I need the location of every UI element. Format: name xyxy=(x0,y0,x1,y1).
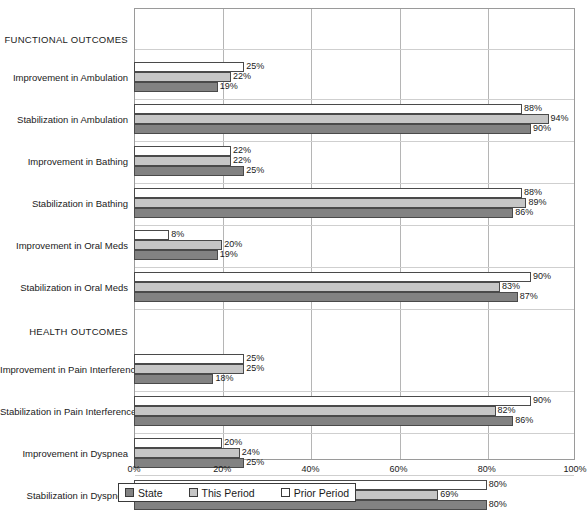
bar-period[interactable] xyxy=(134,282,500,292)
legend-item-prior-period[interactable]: Prior Period xyxy=(281,487,349,499)
section-label: FUNCTIONAL OUTCOMES xyxy=(0,34,128,45)
category-label: Improvement in Pain Interference xyxy=(0,364,128,375)
bar-state[interactable] xyxy=(134,250,218,260)
x-axis-tick-label: 60% xyxy=(390,464,408,475)
gridline-horizontal xyxy=(135,475,574,476)
bar-prior[interactable] xyxy=(134,354,244,364)
category-label: Stabilization in Ambulation xyxy=(0,114,128,125)
bar-state[interactable] xyxy=(134,124,531,134)
bar-period[interactable] xyxy=(134,198,526,208)
bar-period[interactable] xyxy=(134,406,496,416)
section-label: HEALTH OUTCOMES xyxy=(0,326,128,337)
bar-value-label: 90% xyxy=(531,123,551,134)
bar-prior[interactable] xyxy=(134,272,531,282)
bar-prior[interactable] xyxy=(134,62,244,72)
legend-label-this-period: This Period xyxy=(202,487,255,499)
bar-state[interactable] xyxy=(134,166,244,176)
category-label: Improvement in Dyspnea xyxy=(0,448,128,459)
bar-state[interactable] xyxy=(134,208,513,218)
gridline-horizontal xyxy=(135,433,574,434)
legend-item-state[interactable]: State xyxy=(125,487,163,499)
category-label: Stabilization in Oral Meds xyxy=(0,282,128,293)
bar-prior[interactable] xyxy=(134,438,222,448)
bar-period[interactable] xyxy=(134,114,549,124)
bar-value-label: 25% xyxy=(244,165,264,176)
chart-title xyxy=(134,0,575,1)
legend-label-state: State xyxy=(138,487,163,499)
category-label: Improvement in Oral Meds xyxy=(0,240,128,251)
chart-legend: State This Period Prior Period xyxy=(118,483,356,502)
category-label: Improvement in Bathing xyxy=(0,156,128,167)
category-label: Stabilization in Dyspnea xyxy=(0,490,128,501)
bar-value-label: 18% xyxy=(213,373,233,384)
bar-state[interactable] xyxy=(134,416,513,426)
gridline-horizontal xyxy=(135,391,574,392)
gridline-horizontal xyxy=(135,49,574,50)
legend-label-prior-period: Prior Period xyxy=(294,487,349,499)
bar-value-label: 86% xyxy=(513,415,533,426)
bar-state[interactable] xyxy=(134,374,213,384)
gridline-horizontal xyxy=(135,183,574,184)
category-label: Improvement in Ambulation xyxy=(0,72,128,83)
bar-chart: FUNCTIONAL OUTCOMESImprovement in Ambula… xyxy=(0,0,588,510)
legend-swatch-state-icon xyxy=(125,488,134,497)
bar-prior[interactable] xyxy=(134,396,531,406)
category-label: Stabilization in Pain Interference xyxy=(0,406,128,417)
legend-swatch-prior-period-icon xyxy=(281,488,290,497)
legend-item-this-period[interactable]: This Period xyxy=(189,487,255,499)
bar-value-label: 25% xyxy=(244,457,264,468)
bar-value-label: 25% xyxy=(244,363,264,374)
gridline-horizontal xyxy=(135,309,574,310)
category-label: Stabilization in Bathing xyxy=(0,198,128,209)
bar-value-label: 80% xyxy=(487,499,507,510)
bar-period[interactable] xyxy=(134,448,240,458)
bar-value-label: 19% xyxy=(218,81,238,92)
gridline-horizontal xyxy=(135,99,574,100)
gridline-horizontal xyxy=(135,225,574,226)
x-axis-tick-label: 0% xyxy=(127,464,140,475)
bar-period[interactable] xyxy=(134,156,231,166)
gridline-horizontal xyxy=(135,267,574,268)
bar-period[interactable] xyxy=(134,72,231,82)
bar-value-label: 94% xyxy=(549,113,569,124)
x-axis-tick-label: 20% xyxy=(213,464,231,475)
bar-prior[interactable] xyxy=(134,104,522,114)
bar-period[interactable] xyxy=(134,240,222,250)
bar-state[interactable] xyxy=(134,292,518,302)
x-axis-tick-label: 40% xyxy=(301,464,319,475)
x-axis-tick-label: 80% xyxy=(478,464,496,475)
bar-value-label: 87% xyxy=(518,291,538,302)
gridline-horizontal xyxy=(135,141,574,142)
bar-prior[interactable] xyxy=(134,188,522,198)
bar-value-label: 69% xyxy=(438,489,458,500)
legend-swatch-this-period-icon xyxy=(189,488,198,497)
bar-value-label: 8% xyxy=(169,229,184,240)
bar-prior[interactable] xyxy=(134,230,169,240)
bar-value-label: 90% xyxy=(531,271,551,282)
bar-prior[interactable] xyxy=(134,146,231,156)
bar-value-label: 86% xyxy=(513,207,533,218)
bar-value-label: 19% xyxy=(218,249,238,260)
bar-value-label: 80% xyxy=(487,479,507,490)
bar-value-label: 88% xyxy=(522,103,542,114)
bar-value-label: 90% xyxy=(531,395,551,406)
bar-state[interactable] xyxy=(134,82,218,92)
x-axis-tick-label: 100% xyxy=(563,464,586,475)
